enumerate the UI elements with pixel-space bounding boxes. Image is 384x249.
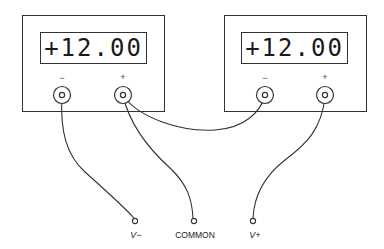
- left-minus-jack-icon: [54, 87, 71, 104]
- v-plus-terminal-icon: [250, 218, 255, 223]
- right-minus-jack-icon: [257, 87, 274, 104]
- v-plus-label: V+: [243, 231, 267, 240]
- wire-left-plus-to-right-minus: [123, 96, 265, 130]
- common-label: COMMON: [172, 231, 218, 240]
- common-terminal-icon: [191, 218, 196, 223]
- left-plus-jack-icon: [115, 87, 132, 104]
- wiring: [0, 0, 384, 249]
- series-power-supply-diagram: +12.00 − + +12.00 − +: [0, 0, 384, 249]
- wire-left-minus-to-v-minus: [62, 96, 134, 218]
- v-minus-terminal-icon: [132, 218, 137, 223]
- right-plus-jack-icon: [317, 87, 334, 104]
- wire-right-plus-to-v-plus: [253, 96, 325, 218]
- wire-left-plus-to-common: [123, 96, 193, 218]
- v-minus-label: V−: [124, 231, 148, 240]
